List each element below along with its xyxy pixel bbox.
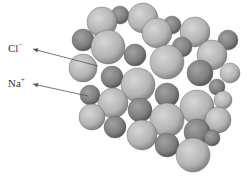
chloride-ion-sphere: [214, 91, 232, 109]
sodium-ion-sphere: [187, 60, 213, 86]
sodium-ion-sphere: [101, 66, 123, 88]
chloride-charge: −: [18, 41, 22, 49]
chloride-ion-sphere: [79, 104, 105, 130]
sodium-ion-sphere: [204, 130, 220, 146]
chloride-ion-sphere: [127, 120, 157, 150]
chloride-ion-sphere: [176, 138, 210, 172]
sodium-charge: +: [21, 76, 25, 84]
chloride-ion-sphere: [220, 63, 240, 83]
sodium-ion-sphere: [124, 44, 146, 66]
sodium-label: Na+: [8, 78, 25, 89]
nacl-lattice-diagram: Cl− Na+: [0, 0, 247, 181]
chloride-ion-sphere: [150, 45, 184, 79]
chloride-symbol: Cl: [8, 42, 18, 54]
chloride-ion-sphere: [142, 18, 172, 48]
chloride-ion-sphere: [69, 54, 97, 82]
chloride-label: Cl−: [8, 43, 22, 54]
sodium-symbol: Na: [8, 77, 21, 89]
sodium-ion-sphere: [128, 98, 152, 122]
sodium-ion-sphere: [104, 116, 126, 138]
lattice-spheres: [0, 0, 247, 181]
cl-arrowhead-icon: [33, 48, 38, 52]
sodium-ion-sphere: [72, 29, 94, 51]
chloride-ion-sphere: [91, 30, 125, 64]
sodium-ion-sphere: [155, 133, 179, 157]
na-pointer-arrow: [33, 84, 88, 96]
na-arrowhead-icon: [33, 83, 38, 87]
